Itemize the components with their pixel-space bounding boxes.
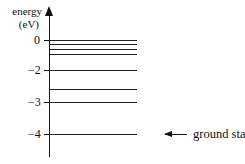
energy-level-4 bbox=[50, 70, 137, 71]
energy-level-6 bbox=[50, 102, 137, 103]
energy-level-5 bbox=[50, 89, 137, 90]
left-arrow-icon bbox=[165, 134, 187, 135]
energy-axis bbox=[49, 14, 50, 157]
energy-level-ground bbox=[50, 134, 137, 135]
tick-label-0: 0 bbox=[34, 34, 40, 46]
energy-level-2 bbox=[50, 49, 137, 50]
tick-label-minus-3: −3 bbox=[28, 96, 41, 108]
axis-title-energy: energy bbox=[2, 6, 42, 17]
ground-state-label: ground state bbox=[193, 128, 245, 140]
tick-label-minus-4: −4 bbox=[28, 128, 41, 140]
tick-label-minus-2: −2 bbox=[28, 64, 41, 76]
tick-mark-0 bbox=[44, 40, 49, 41]
energy-level-1 bbox=[50, 44, 137, 45]
tick-mark-minus-3 bbox=[44, 102, 49, 103]
tick-mark-minus-4 bbox=[44, 134, 49, 135]
energy-level-0 bbox=[50, 40, 137, 41]
tick-mark-minus-2 bbox=[44, 70, 49, 71]
axis-title-unit: (eV) bbox=[2, 19, 39, 30]
energy-level-3 bbox=[50, 54, 137, 55]
